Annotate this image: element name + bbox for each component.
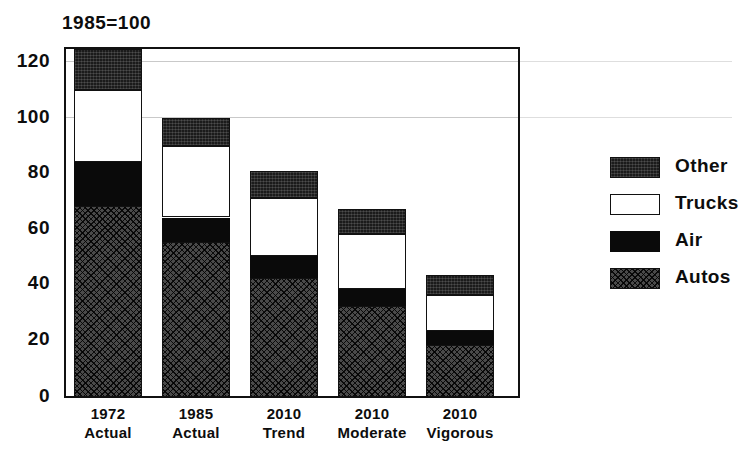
x-label-5-line2: Vigorous (400, 423, 520, 442)
bar-segment-autos[interactable] (162, 242, 230, 397)
legend: Other Trucks Air Autos (610, 152, 742, 300)
bar-segment-autos[interactable] (338, 306, 406, 397)
bar-segment-other[interactable] (338, 209, 406, 234)
x-label-5-line1: 2010 (400, 404, 520, 423)
stacked-bar-chart-figure: 1985=100 120 100 80 60 40 20 0 1972 Actu… (0, 0, 746, 472)
legend-label-trucks: Trucks (675, 192, 739, 214)
y-tick-label-120: 120 (17, 50, 50, 72)
legend-row-trucks[interactable]: Trucks (610, 189, 742, 226)
bar-segment-other[interactable] (162, 118, 230, 146)
x-axis: 1972 Actual 1985 Actual 2010 Trend 2010 … (66, 404, 518, 460)
bar-segment-autos[interactable] (250, 278, 318, 397)
legend-swatch-trucks-icon (610, 194, 660, 215)
legend-swatch-autos-icon (610, 268, 660, 289)
bar-segment-autos[interactable] (74, 206, 142, 397)
legend-row-other[interactable]: Other (610, 152, 742, 189)
legend-row-autos[interactable]: Autos (610, 263, 742, 300)
bar-segment-air[interactable] (338, 289, 406, 306)
y-tick-label-60: 60 (28, 217, 50, 239)
y-axis: 120 100 80 60 40 20 0 (0, 47, 58, 398)
bar-segment-trucks[interactable] (338, 234, 406, 289)
y-tick-label-80: 80 (28, 161, 50, 183)
bar-group-2010-trend[interactable] (250, 171, 318, 397)
bar-group-1972-actual[interactable] (74, 49, 142, 397)
bar-segment-autos[interactable] (426, 345, 494, 397)
legend-label-air: Air (675, 229, 703, 251)
legend-swatch-air-icon (610, 231, 660, 252)
bar-segment-air[interactable] (250, 256, 318, 278)
bar-segment-other[interactable] (74, 49, 142, 90)
bar-segment-trucks[interactable] (250, 198, 318, 256)
bar-segment-trucks[interactable] (162, 146, 230, 218)
y-tick-label-100: 100 (17, 106, 50, 128)
bar-group-2010-vigorous[interactable] (426, 275, 494, 397)
legend-row-air[interactable]: Air (610, 226, 742, 263)
x-label-5: 2010 Vigorous (400, 404, 520, 442)
legend-label-autos: Autos (675, 266, 731, 288)
legend-swatch-other-icon (610, 157, 660, 178)
bar-segment-air[interactable] (74, 162, 142, 206)
bar-segment-air[interactable] (426, 331, 494, 345)
bar-segment-trucks[interactable] (426, 295, 494, 331)
legend-label-other: Other (675, 155, 728, 177)
bar-segment-other[interactable] (250, 171, 318, 199)
y-tick-label-40: 40 (28, 272, 50, 294)
bar-segment-trucks[interactable] (74, 90, 142, 162)
chart-title: 1985=100 (62, 12, 151, 34)
y-tick-label-20: 20 (28, 328, 50, 350)
bar-group-2010-moderate[interactable] (338, 209, 406, 397)
plot-area (66, 49, 518, 397)
bar-segment-other[interactable] (426, 275, 494, 294)
bar-group-1985-actual[interactable] (162, 118, 230, 397)
bar-segment-air[interactable] (162, 218, 230, 243)
